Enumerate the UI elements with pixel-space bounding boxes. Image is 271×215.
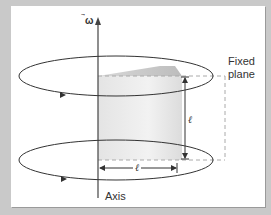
axis-label: Axis: [105, 190, 126, 202]
fixed-plane-label-line1: Fixed: [228, 55, 255, 67]
plane-top-edge: [98, 66, 182, 76]
rotating-cylinder-diagram: [0, 0, 271, 215]
height-label: ℓ: [188, 114, 192, 125]
axis-arrowhead-icon: [95, 17, 101, 25]
shaded-plane: [98, 76, 182, 160]
omega-label: ω: [85, 15, 93, 27]
fixed-plane-label-line2: plane: [228, 68, 255, 80]
radius-label: ℓ: [133, 162, 141, 173]
